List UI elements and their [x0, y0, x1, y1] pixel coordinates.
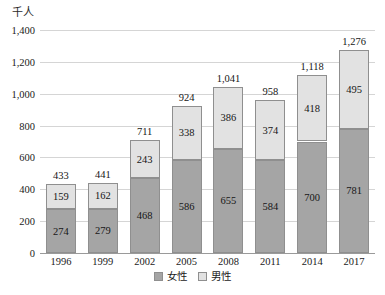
y-axis-tick-label: 400: [19, 184, 35, 195]
bar-segment-value: 159: [53, 191, 69, 202]
bar-segment-value: 374: [262, 125, 278, 136]
bar-segment-male[interactable]: 374: [255, 100, 285, 160]
y-axis-tick-label: 1,000: [11, 88, 35, 99]
x-axis-tick-label: 2005: [176, 256, 197, 268]
bar-segment-female[interactable]: 586: [172, 160, 202, 253]
bar-segment-value: 586: [179, 201, 195, 212]
bar-segment-female[interactable]: 655: [213, 149, 243, 253]
plot-area: 02004006008001,0001,2001,400 27415943327…: [40, 30, 375, 253]
bar-group[interactable]: 7814951,276: [339, 30, 369, 253]
bar-segment-value: 338: [179, 127, 195, 138]
x-axis-tick-label: 2002: [134, 256, 155, 268]
male-swatch: [198, 272, 207, 281]
bar-segment-value: 243: [137, 154, 153, 165]
bar-segment-value: 274: [53, 226, 69, 237]
bar-segment-value: 495: [346, 84, 362, 95]
bar-group[interactable]: 468243711: [130, 30, 160, 253]
bar-segment-male[interactable]: 162: [88, 183, 118, 209]
x-axis-tick-label: 2014: [302, 256, 323, 268]
bar-segment-male[interactable]: 495: [339, 50, 369, 129]
legend-item[interactable]: 男性: [198, 271, 231, 282]
bar-segment-female[interactable]: 279: [88, 209, 118, 253]
female-swatch: [154, 272, 163, 281]
x-axis-tick-label: 1996: [50, 256, 71, 268]
y-axis-tick-label: 0: [30, 248, 35, 259]
y-axis-tick-label: 800: [19, 120, 35, 131]
bar-segment-female[interactable]: 700: [297, 142, 327, 254]
bar-segment-female[interactable]: 274: [46, 209, 76, 253]
y-axis-unit-label: 千人: [12, 6, 34, 19]
bar-segment-female[interactable]: 468: [130, 178, 160, 253]
bar-group[interactable]: 6553861,041: [213, 30, 243, 253]
bar-group[interactable]: 584374958: [255, 30, 285, 253]
bar-total-label: 441: [95, 169, 111, 180]
bar-segment-male[interactable]: 243: [130, 140, 160, 179]
bar-segment-value: 700: [304, 192, 320, 203]
x-axis-tick-label: 2011: [260, 256, 281, 268]
bar-total-label: 1,118: [301, 61, 324, 72]
bar-segment-female[interactable]: 781: [339, 129, 369, 253]
bar-total-label: 711: [137, 126, 152, 137]
bar-total-label: 1,041: [217, 73, 241, 84]
bar-group[interactable]: 274159433: [46, 30, 76, 253]
y-axis-tick-label: 1,400: [11, 25, 35, 36]
x-axis-tick-label: 2017: [344, 256, 365, 268]
bar-segment-female[interactable]: 584: [255, 160, 285, 253]
bar-segment-value: 468: [137, 210, 153, 221]
y-axis-tick-label: 200: [19, 216, 35, 227]
chart-legend: 女性男性: [0, 271, 385, 282]
bar-total-label: 1,276: [342, 36, 366, 47]
bar-segment-value: 655: [221, 195, 237, 206]
x-axis-baseline: 0: [40, 253, 375, 254]
bar-segment-value: 279: [95, 225, 111, 236]
bar-segment-value: 584: [262, 201, 278, 212]
bar-total-label: 924: [179, 92, 195, 103]
bar-group[interactable]: 7004181,118: [297, 30, 327, 253]
bar-total-label: 433: [53, 170, 69, 181]
x-axis-tick-label: 2008: [218, 256, 239, 268]
bar-segment-value: 418: [304, 103, 320, 114]
bar-group[interactable]: 586338924: [172, 30, 202, 253]
bar-series-container: 2741594332791624414682437115863389246553…: [40, 30, 375, 253]
bar-segment-value: 386: [221, 112, 237, 123]
bar-segment-male[interactable]: 418: [297, 75, 327, 142]
bar-total-label: 958: [262, 86, 278, 97]
legend-label: 女性: [167, 271, 187, 282]
stacked-bar-chart: 千人 02004006008001,0001,2001,400 27415943…: [0, 0, 385, 295]
legend-item[interactable]: 女性: [154, 271, 187, 282]
bar-segment-male[interactable]: 386: [213, 87, 243, 148]
x-axis-tick-label: 1999: [92, 256, 113, 268]
y-axis-tick-label: 600: [19, 152, 35, 163]
bar-segment-value: 162: [95, 190, 111, 201]
y-axis-tick-label: 1,200: [11, 56, 35, 67]
bar-group[interactable]: 279162441: [88, 30, 118, 253]
bar-segment-male[interactable]: 159: [46, 184, 76, 209]
legend-label: 男性: [211, 271, 231, 282]
bar-segment-value: 781: [346, 185, 362, 196]
bar-segment-male[interactable]: 338: [172, 106, 202, 160]
